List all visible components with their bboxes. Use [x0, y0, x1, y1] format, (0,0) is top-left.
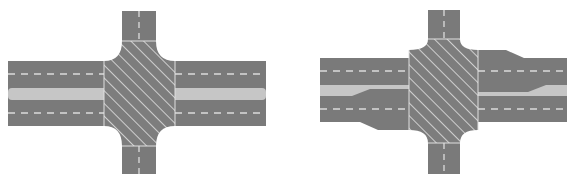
hatched-junction-box	[409, 39, 478, 143]
diagram-canvas	[0, 0, 573, 180]
standard-intersection	[8, 11, 266, 174]
intersection-diagrams	[0, 0, 573, 180]
east-median	[167, 88, 266, 100]
hatched-junction-box	[104, 41, 175, 146]
west-median	[8, 88, 112, 100]
flared-intersection	[320, 10, 567, 174]
